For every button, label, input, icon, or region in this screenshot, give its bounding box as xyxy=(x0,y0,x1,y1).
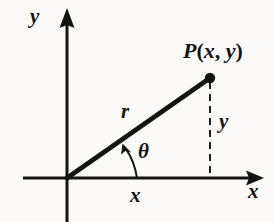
point-label-coord-y: y xyxy=(226,38,236,63)
point-label-coord-x: x xyxy=(204,38,215,63)
point-marker-dot xyxy=(205,73,215,83)
radius-segment xyxy=(67,78,210,178)
polar-coordinate-diagram: y x P(x, y) r y x θ xyxy=(0,0,274,222)
angle-label-theta: θ xyxy=(138,141,149,162)
angle-arc xyxy=(126,148,137,178)
horizontal-leg-label: x xyxy=(130,185,141,206)
angle-arc-arrowhead-icon xyxy=(121,143,131,154)
x-axis-label: x xyxy=(248,181,259,202)
point-label-open-paren: ( xyxy=(196,38,203,63)
y-axis-label: y xyxy=(30,6,39,27)
point-label-comma: , xyxy=(215,38,226,63)
radius-label: r xyxy=(121,101,129,122)
y-axis-arrowhead-icon xyxy=(60,8,75,28)
point-label-p: P(x, y) xyxy=(183,40,243,62)
point-label-close-paren: ) xyxy=(236,38,243,63)
vertical-leg-label: y xyxy=(219,111,228,132)
point-label-name: P xyxy=(183,38,196,63)
